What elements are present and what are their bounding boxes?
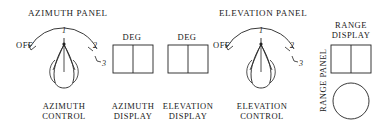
- radar-console-diagram: AZIMUTH PANEL OFF 1 2 3 AZIMUTH CONTROL …: [0, 0, 379, 134]
- range-control-knob-graphic[interactable]: [0, 0, 379, 134]
